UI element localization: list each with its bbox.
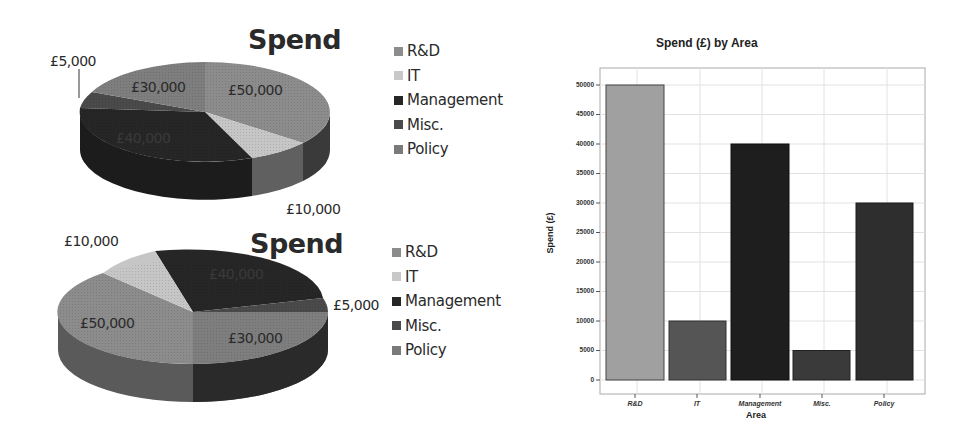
legend-swatch: [394, 145, 403, 154]
pie-bottom-legend: R&D IT Management Misc. Policy: [392, 240, 501, 363]
pie-top-slices: [80, 62, 330, 162]
x-axis-label: Area: [746, 410, 766, 420]
pie-bottom-title: Spend: [250, 228, 343, 259]
legend-swatch: [392, 321, 401, 330]
pie-bottom-label-policy: £30,000: [228, 330, 282, 346]
bar-management: [731, 144, 789, 380]
y-axis-label: Spend (£): [545, 208, 555, 258]
pie-bottom-label-it: £10,000: [64, 233, 118, 249]
x-tick: IT: [662, 400, 732, 407]
bar-rd: [606, 85, 664, 380]
x-tick: Management: [725, 400, 795, 407]
x-tick: Misc.: [787, 400, 857, 407]
y-tick: 35000: [564, 169, 594, 176]
pie-top-label-misc: £5,000: [50, 53, 96, 69]
y-tick: 20000: [564, 258, 594, 265]
legend-item-misc: Misc.: [392, 314, 501, 339]
legend-item-misc: Misc.: [394, 113, 503, 138]
legend-item-rd: R&D: [392, 240, 501, 265]
pie-top-title: Spend: [248, 24, 341, 55]
pie-top-label-it: £10,000: [286, 201, 340, 217]
y-tick: 40000: [564, 140, 594, 147]
y-tick: 50000: [564, 81, 594, 88]
pie-top-legend: R&D IT Management Misc. Policy: [394, 39, 503, 162]
pie-bottom-label-rd: £50,000: [80, 315, 134, 331]
y-tick: 45000: [564, 110, 594, 117]
pie-top-label-rd: £50,000: [228, 82, 282, 98]
y-tick: 30000: [564, 199, 594, 206]
pie-top-label-policy: £30,000: [131, 79, 185, 95]
x-tick: Policy: [849, 400, 919, 407]
y-tick: 15000: [564, 287, 594, 294]
legend-item-management: Management: [392, 289, 501, 314]
pie-bottom-label-mgmt: £40,000: [209, 266, 263, 282]
bar-policy: [856, 203, 913, 380]
legend-swatch: [392, 297, 401, 306]
pie-bottom-slices: [57, 249, 328, 364]
legend-item-policy: Policy: [394, 137, 503, 162]
legend-swatch: [394, 47, 403, 56]
legend-swatch: [392, 248, 401, 257]
y-tick: 10000: [564, 317, 594, 324]
legend-item-rd: R&D: [394, 39, 503, 64]
legend-item-it: IT: [394, 64, 503, 89]
legend-item-it: IT: [392, 265, 501, 290]
legend-swatch: [392, 346, 401, 355]
legend-item-management: Management: [394, 88, 503, 113]
pie-bottom-label-misc: £5,000: [333, 297, 379, 313]
legend-item-policy: Policy: [392, 338, 501, 363]
legend-swatch: [392, 272, 401, 281]
pie-chart-bottom: Spend £10,000 £40,000 £5,000 £50,000 £30…: [0, 220, 500, 442]
bar-misc: [793, 351, 850, 381]
legend-swatch: [394, 96, 403, 105]
legend-swatch: [394, 120, 403, 129]
pie-chart-top: Spend £5,000 £30,000 £50,000 £40,000 £10…: [0, 0, 500, 220]
pie-top-label-mgmt: £40,000: [116, 130, 170, 146]
x-tick: R&D: [600, 400, 670, 407]
legend-swatch: [394, 71, 403, 80]
y-tick: 5000: [564, 346, 594, 353]
y-tick: 0: [564, 376, 594, 383]
y-tick: 25000: [564, 228, 594, 235]
bar-it: [669, 321, 726, 380]
bar-chart: Spend (£) by Area: [520, 0, 972, 442]
